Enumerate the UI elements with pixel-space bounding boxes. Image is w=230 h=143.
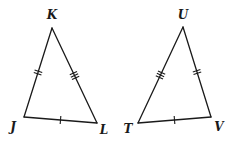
vertex-label-V: V bbox=[214, 120, 225, 134]
vertex-label-U: U bbox=[178, 8, 190, 22]
vertex-label-T: T bbox=[124, 122, 134, 136]
triangle-TUV bbox=[138, 27, 211, 124]
triangle-JKL bbox=[24, 28, 97, 124]
vertex-label-K: K bbox=[46, 8, 58, 22]
tick-mark-TV bbox=[174, 116, 175, 124]
side-UV bbox=[183, 27, 211, 117]
tick-mark-JL bbox=[60, 116, 61, 124]
vertex-label-J: J bbox=[8, 120, 17, 134]
vertex-label-L: L bbox=[99, 123, 108, 137]
diagram-canvas: K J L U T V bbox=[0, 0, 230, 143]
side-JK bbox=[24, 28, 52, 117]
